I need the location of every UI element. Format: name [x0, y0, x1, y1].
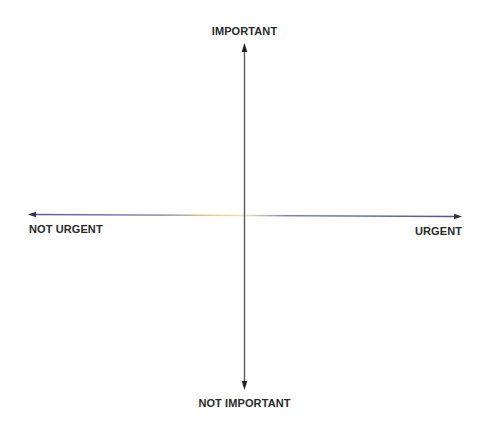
not-important-label: NOT IMPORTANT	[0, 397, 487, 409]
down-arrowhead-icon	[242, 381, 248, 390]
urgency-importance-matrix: IMPORTANT NOT IMPORTANT NOT URGENT URGEN…	[0, 0, 487, 434]
left-arrowhead-icon	[28, 212, 36, 217]
up-arrowhead-icon	[242, 43, 248, 52]
axes-graphic	[0, 0, 487, 434]
vertical-axis	[242, 43, 248, 390]
urgent-label: URGENT	[415, 225, 462, 237]
important-label: IMPORTANT	[0, 25, 487, 37]
not-urgent-label: NOT URGENT	[29, 223, 103, 235]
right-arrowhead-icon	[454, 214, 462, 219]
